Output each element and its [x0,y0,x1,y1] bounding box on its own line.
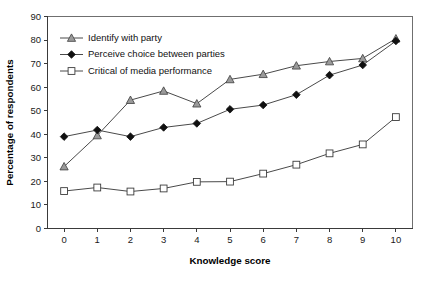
y-tick-label: 60 [30,82,41,93]
y-tick-label: 0 [36,223,41,234]
chart-page: 0102030405060708090012345678910Knowledge… [0,0,431,282]
data-point-marker [94,184,101,191]
y-tick-label: 20 [30,176,41,187]
data-point-marker [160,87,168,94]
legend: Identify with partyPerceive choice betwe… [60,32,225,76]
y-tick-label: 10 [30,199,41,210]
legend-marker [68,68,75,75]
line-chart: 0102030405060708090012345678910Knowledge… [0,0,431,282]
data-point-marker [359,141,366,148]
data-point-marker [127,133,135,141]
data-point-marker [127,188,134,195]
legend-item[interactable]: Critical of media performance [60,65,212,76]
y-tick-label: 70 [30,58,41,69]
data-point-marker [160,124,168,132]
x-tick-label: 0 [61,234,66,245]
data-point-marker [193,100,201,107]
x-tick-label: 4 [194,234,199,245]
data-point-marker [393,114,400,121]
x-axis-title: Knowledge score [189,255,271,266]
data-point-marker [326,71,334,79]
data-point-marker [293,91,301,99]
x-tick-label: 2 [128,234,133,245]
data-point-marker [359,61,367,69]
legend-item[interactable]: Perceive choice between parties [60,48,225,59]
legend-label: Identify with party [88,32,162,43]
data-point-marker [293,161,300,168]
data-point-marker [160,185,167,192]
x-tick-label: 3 [161,234,166,245]
x-tick-label: 9 [360,234,365,245]
data-point-marker [227,178,234,185]
data-point-marker [259,101,267,109]
data-point-marker [61,188,68,195]
y-tick-label: 90 [30,11,41,22]
data-point-marker [326,150,333,157]
legend-label: Critical of media performance [88,65,212,76]
y-tick-label: 50 [30,105,41,116]
legend-label: Perceive choice between parties [88,48,225,59]
y-axis-title: Percentage of respondents [4,59,15,186]
x-tick-label: 1 [95,234,100,245]
data-point-marker [60,133,68,141]
data-point-marker [392,37,400,45]
y-tick-label: 30 [30,152,41,163]
data-point-marker [193,178,200,185]
y-tick-label: 80 [30,34,41,45]
x-tick-label: 5 [227,234,232,245]
legend-marker [68,51,76,59]
series-3 [61,114,400,195]
data-point-marker [193,120,201,128]
data-point-marker [260,170,267,177]
x-tick-label: 6 [261,234,266,245]
y-tick-label: 40 [30,129,41,140]
legend-item[interactable]: Identify with party [60,32,162,43]
x-tick-label: 8 [327,234,332,245]
x-tick-label: 7 [294,234,299,245]
data-point-marker [226,106,234,114]
x-tick-label: 10 [391,234,402,245]
